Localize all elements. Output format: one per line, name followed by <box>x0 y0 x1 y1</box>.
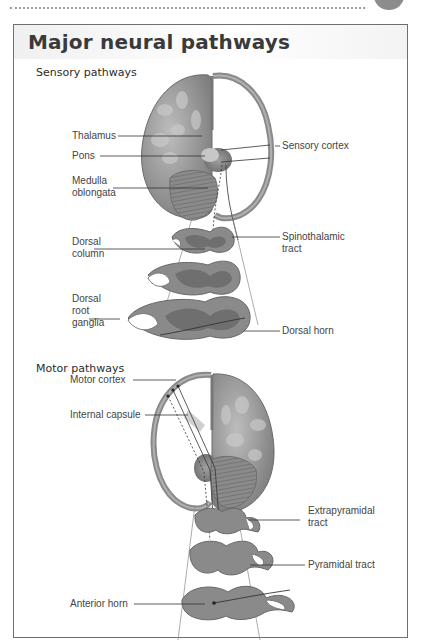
label-medulla-oblongata: Medulla oblongata <box>72 175 116 199</box>
label-dorsal-horn: Dorsal horn <box>282 325 334 337</box>
label-thalamus: Thalamus <box>72 130 116 142</box>
sensory-spinal-sections <box>128 215 258 339</box>
label-motor-cortex: Motor cortex <box>70 374 126 386</box>
label-dorsal-root-ganglia: Dorsal root ganglia <box>72 293 104 329</box>
label-anterior-horn: Anterior horn <box>70 598 128 610</box>
label-dorsal-column: Dorsal column <box>72 236 104 260</box>
label-pyramidal-tract: Pyramidal tract <box>308 559 375 571</box>
label-sensory-cortex: Sensory cortex <box>282 140 349 152</box>
motor-spinal-sections <box>178 505 294 640</box>
label-internal-capsule: Internal capsule <box>70 409 141 421</box>
section-title-sensory: Sensory pathways <box>36 66 137 79</box>
sensory-brain <box>142 75 272 240</box>
label-spinothalamic-tract: Spinothalamic tract <box>282 231 345 255</box>
label-pons: Pons <box>72 150 95 162</box>
label-extrapyramidal-tract: Extrapyramidal tract <box>308 505 375 529</box>
neural-pathways-illustration <box>0 0 422 643</box>
